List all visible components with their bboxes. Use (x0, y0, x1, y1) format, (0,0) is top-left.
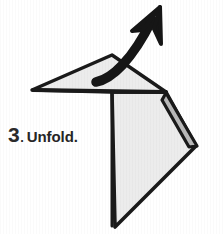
step-instruction-text: Unfold. (27, 129, 78, 145)
origami-step-figure: 3 . Unfold. (0, 0, 224, 234)
lower-paper-body (112, 92, 196, 227)
step-number: 3 (8, 124, 19, 145)
upper-triangular-flap (32, 55, 166, 92)
horizontal-crease-line (33, 90, 166, 92)
step-number-period: . (20, 130, 24, 145)
step-caption: 3 . Unfold. (8, 124, 78, 145)
origami-diagram (0, 0, 224, 234)
